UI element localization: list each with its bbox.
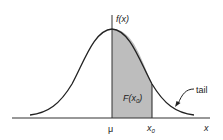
x0-label: x0 bbox=[146, 123, 156, 134]
mean-label: μ bbox=[108, 124, 113, 134]
x-axis-label: x bbox=[203, 123, 209, 133]
area-label: F(x0) bbox=[123, 93, 142, 104]
y-axis-label: f(x) bbox=[116, 14, 129, 24]
tail-arrow-icon bbox=[178, 89, 194, 104]
normal-distribution-diagram: f(x) F(x0) tail μ x0 x bbox=[0, 0, 223, 140]
tail-label: tail bbox=[196, 85, 208, 95]
